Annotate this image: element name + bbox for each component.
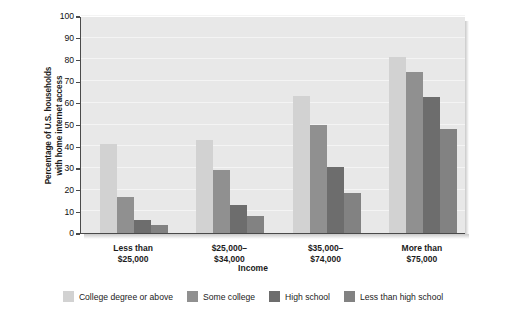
y-tick-label: 70 xyxy=(48,77,74,86)
bar xyxy=(406,72,423,233)
bar xyxy=(196,140,213,233)
bar xyxy=(100,144,117,233)
bar-group xyxy=(100,17,168,233)
bar xyxy=(310,125,327,234)
y-tick-label: 30 xyxy=(48,164,74,173)
x-category-label: $25,000–$34,000 xyxy=(181,243,277,265)
x-category-label-line: Less than xyxy=(113,243,153,253)
bar xyxy=(389,57,406,233)
legend-swatch xyxy=(187,291,198,302)
panel-shadow-right xyxy=(465,21,469,238)
bar xyxy=(327,167,344,233)
bar xyxy=(423,97,440,233)
x-category-label: $35,000–$74,000 xyxy=(278,243,374,265)
bar xyxy=(117,197,134,233)
x-category-label-line: More than xyxy=(402,243,443,253)
bar-group xyxy=(389,17,457,233)
legend-item[interactable]: Less than high school xyxy=(344,291,443,302)
y-tick-label: 90 xyxy=(48,34,74,43)
bar xyxy=(134,220,151,233)
legend-label: Less than high school xyxy=(360,292,443,302)
legend-item[interactable]: College degree or above xyxy=(63,291,173,302)
panel-shadow-bottom xyxy=(84,234,469,239)
bar xyxy=(247,216,264,233)
gridline xyxy=(81,15,465,16)
legend-swatch xyxy=(344,291,355,302)
bar-group xyxy=(196,17,264,233)
bar xyxy=(230,205,247,233)
legend-swatch xyxy=(63,291,74,302)
y-tick-label: 80 xyxy=(48,56,74,65)
chart-legend: College degree or aboveSome collegeHigh … xyxy=(0,291,506,302)
x-category-label-line: $25,000– xyxy=(212,243,247,253)
y-axis-title: Percentage of U.S. households with home … xyxy=(14,17,44,234)
bar xyxy=(293,96,310,233)
legend-item[interactable]: Some college xyxy=(187,291,255,302)
x-category-label-line: $35,000– xyxy=(308,243,343,253)
y-tick-label: 40 xyxy=(48,143,74,152)
y-tick-label: 20 xyxy=(48,186,74,195)
y-tick-label: 50 xyxy=(48,121,74,130)
bar xyxy=(151,225,168,233)
x-axis-title: Income xyxy=(0,263,506,273)
legend-label: Some college xyxy=(203,292,255,302)
plot-area xyxy=(80,17,465,234)
bar xyxy=(344,193,361,233)
legend-label: High school xyxy=(285,292,330,302)
bar xyxy=(213,170,230,233)
x-category-label: Less than$25,000 xyxy=(85,243,181,265)
y-tick-label: 100 xyxy=(48,12,74,21)
legend-label: College degree or above xyxy=(79,292,173,302)
chart-figure: Percentage of U.S. households with home … xyxy=(0,0,506,325)
bar-group xyxy=(293,17,361,233)
legend-swatch xyxy=(269,291,280,302)
x-category-label: More than$75,000 xyxy=(374,243,470,265)
y-tick-label: 0 xyxy=(48,229,74,238)
y-tick-label: 10 xyxy=(48,208,74,217)
bar xyxy=(440,129,457,233)
y-tick-label: 60 xyxy=(48,99,74,108)
legend-item[interactable]: High school xyxy=(269,291,330,302)
